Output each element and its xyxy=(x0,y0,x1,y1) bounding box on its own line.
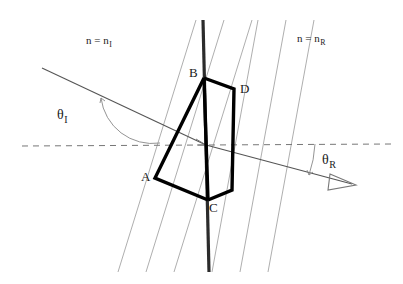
angle-arc-incident xyxy=(101,98,160,144)
wavefront-refracted-3 xyxy=(268,20,314,272)
wavefront-incident-3 xyxy=(174,20,252,272)
diagram-canvas xyxy=(0,0,403,284)
vertex-label-d: D xyxy=(240,82,249,95)
angle-label-incident-subscript: I xyxy=(64,114,68,125)
vertex-label-a: A xyxy=(141,170,150,183)
angle-arc-refracted xyxy=(309,144,315,175)
vertex-label-c: C xyxy=(209,201,218,214)
medium-label-incident-subscript: I xyxy=(109,40,112,49)
angle-label-incident: θI xyxy=(57,108,68,125)
shared-edge-BC xyxy=(204,78,208,200)
medium-label-refracted-subscript: R xyxy=(320,38,326,47)
wavefront-refracted-2 xyxy=(240,20,286,272)
angle-arc-incident-arrow-icon xyxy=(100,98,105,103)
vertex-label-b: B xyxy=(189,66,198,79)
incident-ray xyxy=(42,68,206,145)
medium-label-refracted: n = nR xyxy=(297,33,326,47)
medium-label-incident: n = nI xyxy=(86,35,112,49)
angle-label-refracted: θR xyxy=(322,153,336,170)
wavefront-incident-2 xyxy=(146,20,224,272)
refracted-ray-arrowhead-icon xyxy=(328,174,356,190)
angle-label-refracted-subscript: R xyxy=(329,159,336,170)
wavefront-refracted-1 xyxy=(212,20,258,272)
refraction-diagram: n = nI n = nR θI θR B D A C xyxy=(0,0,403,284)
wavefront-incident-1 xyxy=(118,20,196,272)
wavefront-group-refracted xyxy=(212,20,314,272)
